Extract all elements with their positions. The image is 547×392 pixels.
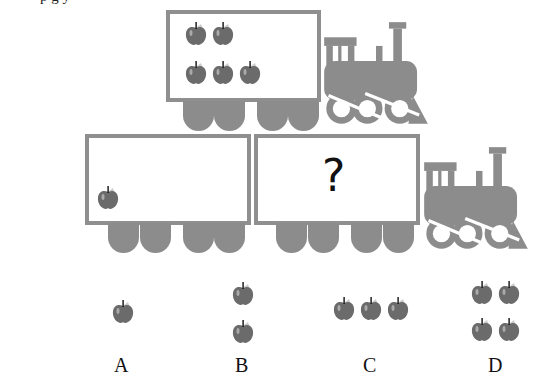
wheel-icon xyxy=(383,223,414,253)
apple-icon xyxy=(387,297,409,321)
option-label: C xyxy=(363,354,376,377)
apple-icon xyxy=(212,22,234,46)
wheel-icon xyxy=(214,101,245,131)
option-label: D xyxy=(488,354,502,377)
clipped-question-text: p g y xyxy=(40,0,70,5)
apple-icon xyxy=(471,318,493,342)
apple-icon xyxy=(471,281,493,305)
wheel-icon xyxy=(214,223,245,253)
apple-icon xyxy=(212,61,234,85)
apple-icon xyxy=(498,281,520,305)
wheel-icon xyxy=(257,101,288,131)
apple-icon xyxy=(185,61,207,85)
option-label: B xyxy=(235,354,248,377)
apple-icon xyxy=(97,186,119,210)
wheel-icon xyxy=(140,223,171,253)
wheel-icon xyxy=(183,223,214,253)
question-mark: ? xyxy=(322,150,345,201)
wheel-icon xyxy=(308,223,339,253)
apple-icon xyxy=(498,318,520,342)
wheel-icon xyxy=(276,223,307,253)
apple-icon xyxy=(185,22,207,46)
bottom-car-1 xyxy=(85,134,251,225)
wheel-icon xyxy=(108,223,139,253)
apple-icon xyxy=(232,320,254,344)
wheel-icon xyxy=(183,101,214,131)
wheel-icon xyxy=(351,223,382,253)
locomotive-icon xyxy=(422,145,530,253)
option-label: A xyxy=(114,354,128,377)
locomotive-icon xyxy=(322,18,430,130)
apple-icon xyxy=(232,282,254,306)
wheel-icon xyxy=(288,101,319,131)
apple-icon xyxy=(239,61,261,85)
apple-icon xyxy=(360,297,382,321)
apple-icon xyxy=(112,300,134,324)
apple-icon xyxy=(333,297,355,321)
